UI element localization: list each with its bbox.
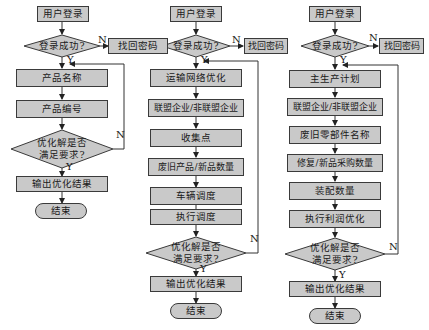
yes-label: Y (200, 264, 207, 274)
decision-text-line1: 优化解是否 (11, 137, 113, 149)
step-box: 产品名称 (16, 69, 108, 87)
step-box: 联盟企业/非联盟企业 (287, 98, 383, 116)
step-box: 废旧零部件名称 (289, 126, 381, 144)
decision-text-line1: 优化解是否 (146, 241, 246, 253)
step-box: 废旧产品/新品数量 (148, 158, 244, 176)
yes-label: Y (340, 55, 347, 65)
no-label: N (116, 130, 125, 140)
login-check-decision: 登录成功? (160, 40, 232, 52)
end-terminal: 结束 (170, 303, 222, 319)
decision-text-line2: 满足要求? (146, 253, 246, 265)
step-box: 联盟企业/非联盟企业 (148, 99, 244, 117)
no-label: N (389, 242, 398, 252)
decision-text-line1: 优化解是否 (285, 242, 385, 254)
yes-label: Y (66, 162, 73, 172)
no-label: N (98, 35, 107, 45)
no-label: N (369, 33, 378, 43)
start-box: 用户登录 (309, 6, 361, 22)
recover-password-box: 找回密码 (108, 38, 168, 54)
yes-label: Y (67, 55, 74, 65)
step-box: 执行利润优化 (289, 210, 381, 228)
decision-text-line2: 满足要求? (285, 254, 385, 266)
step-box: 修复/新品采购数量 (287, 154, 383, 172)
yes-label: Y (339, 270, 346, 280)
no-label: N (250, 234, 259, 244)
login-check-decision: 登录成功? (24, 40, 100, 52)
step-box: 收集点 (150, 129, 242, 147)
output-box: 输出优化结果 (16, 176, 108, 192)
output-box: 输出优化结果 (289, 281, 381, 297)
start-box: 用户登录 (37, 6, 89, 22)
flowchart-diagram: 用户登录 登录成功? N 找回密码 Y 产品名称 产品编号 优化解是否 满足要求… (0, 0, 429, 330)
step-box: 运输网络优化 (150, 69, 242, 87)
login-check-decision: 登录成功? (299, 40, 371, 52)
step-box: 车辆调度 (150, 187, 242, 205)
step-box: 装配数量 (289, 182, 381, 200)
decision-text-line2: 满足要求? (11, 149, 113, 161)
recover-password-box: 找回密码 (244, 38, 288, 54)
step-box: 执行调度 (150, 209, 242, 225)
step-box: 主生产计划 (289, 70, 381, 88)
recover-password-box: 找回密码 (379, 38, 424, 54)
yes-label: Y (201, 55, 208, 65)
no-label: N (232, 35, 241, 45)
end-terminal: 结束 (35, 203, 87, 219)
output-box: 输出优化结果 (150, 276, 242, 292)
end-terminal: 结束 (309, 308, 361, 324)
step-box: 产品编号 (16, 100, 108, 118)
start-box: 用户登录 (170, 6, 222, 22)
